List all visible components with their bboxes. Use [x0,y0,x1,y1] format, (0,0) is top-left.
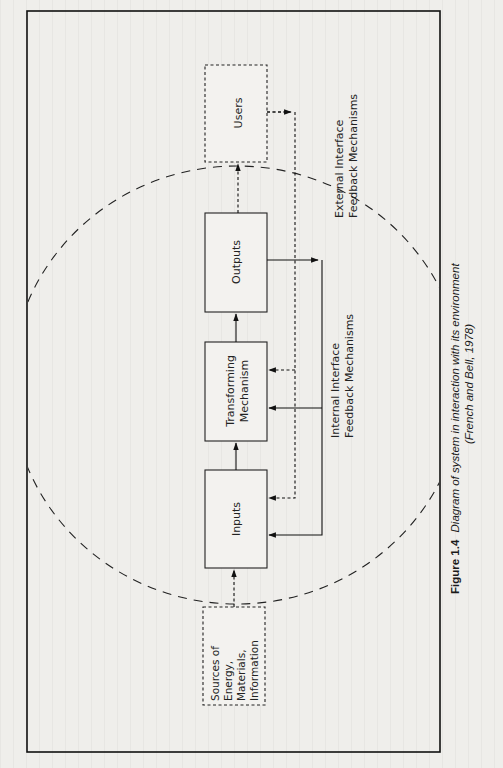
label-internal-feedback: Internal Interface Feedback Mechanisms [329,314,356,438]
figure-caption: Figure 1.4 Diagram of system in interact… [449,263,475,594]
outputs-label: Outputs [230,240,243,284]
label-external-feedback: External Interface Feedback Mechanisms [333,94,360,218]
inputs-label: Inputs [230,502,243,536]
transforming-label-line2: Mechanism [238,360,251,423]
users-label: Users [232,97,245,128]
sources-label-line3: Materials, [235,650,247,701]
figure-number: Figure 1.4 [449,539,461,594]
node-inputs: Inputs [205,470,267,568]
figure-source: (French and Bell, 1978) [463,324,475,444]
node-outputs: Outputs [205,213,267,312]
internal-label-line2: Feedback Mechanisms [343,314,356,438]
internal-label-line1: Internal Interface [329,343,342,438]
external-label-line1: External Interface [333,119,346,218]
figure-diagram: Users Outputs Transforming Mechanism Inp… [0,0,503,768]
node-transforming-mechanism: Transforming Mechanism [205,342,267,441]
figure-title: Diagram of system in interaction with it… [449,263,461,533]
svg-text:Figure 1.4 Diagram of sy: Figure 1.4 Diagram of system in interact… [449,263,461,594]
transforming-label-line1: Transforming [224,355,237,428]
external-label-line2: Feedback Mechanisms [347,94,360,218]
sources-label-line4: Information [248,640,260,701]
sources-label-line2: Energy, [222,661,234,701]
node-sources: Sources of Energy, Materials, Informatio… [203,607,265,705]
node-users: Users [205,65,267,162]
sources-label-line1: Sources of [209,646,221,701]
